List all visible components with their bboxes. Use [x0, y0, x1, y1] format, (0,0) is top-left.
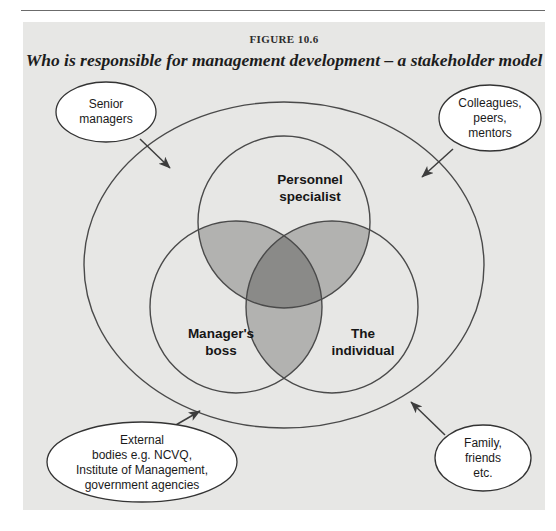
- callout-family-friends-line3: etc.: [473, 466, 492, 480]
- callout-external-bodies-line2: bodies e.g. NCVQ,: [92, 448, 192, 462]
- callout-senior-managers-line1: Senior: [89, 97, 124, 111]
- label-personnel-specialist-line1: Personnel: [277, 172, 342, 187]
- stakeholder-venn-diagram: Personnel specialist Manager's boss The …: [23, 22, 545, 510]
- arrow-senior-managers: [140, 139, 170, 168]
- callout-external-bodies-line3: Institute of Management,: [76, 463, 208, 477]
- label-the-individual-line2: individual: [331, 343, 394, 358]
- arrow-family-friends: [411, 402, 445, 435]
- overlap-regions: [150, 221, 418, 393]
- callout-senior-managers-line2: managers: [79, 112, 132, 126]
- label-personnel-specialist-line2: specialist: [279, 189, 341, 204]
- callout-colleagues-line1: Colleagues,: [458, 96, 521, 110]
- callout-colleagues-line2: peers,: [473, 111, 506, 125]
- callout-colleagues-line3: mentors: [468, 126, 511, 140]
- label-managers-boss-line1: Manager's: [188, 326, 254, 341]
- figure-panel: FIGURE 10.6 Who is responsible for manag…: [23, 22, 545, 510]
- page-rule: [21, 10, 545, 11]
- callout-external-bodies-line1: External: [120, 433, 164, 447]
- callout-external-bodies-line4: government agencies: [85, 478, 200, 492]
- label-the-individual-line1: The: [351, 326, 375, 341]
- label-managers-boss-line2: boss: [205, 343, 237, 358]
- callout-family-friends-line2: friends: [465, 451, 501, 465]
- callout-family-friends-line1: Family,: [464, 436, 502, 450]
